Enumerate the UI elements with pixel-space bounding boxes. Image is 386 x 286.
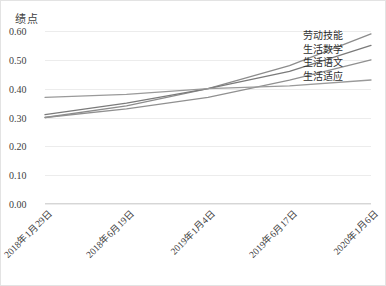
legend-item: 生活语文	[303, 56, 386, 70]
y-axis-tick-labels: 0.600.500.400.300.200.100.00	[5, 31, 43, 204]
y-tick-label: 0.30	[9, 112, 43, 123]
y-tick-label: 0.00	[9, 199, 43, 210]
x-tick-label: 2018年1月29日	[0, 206, 55, 286]
y-tick-label: 0.10	[9, 170, 43, 181]
legend-item: 劳动技能	[303, 29, 386, 43]
y-tick-label: 0.20	[9, 141, 43, 152]
legend-item: 生活数学	[303, 43, 386, 57]
line-chart: 绩点 0.600.500.400.300.200.100.00 2018年1月2…	[0, 0, 386, 286]
y-axis-title: 绩点	[15, 10, 38, 26]
x-axis-tick-labels: 2018年1月29日2018年6月19日2019年1月4日2019年6月17日2…	[45, 204, 371, 284]
y-tick-label: 0.60	[9, 26, 43, 37]
legend: 劳动技能生活数学生活语文生活适应	[303, 29, 386, 83]
y-tick-label: 0.40	[9, 83, 43, 94]
legend-item: 生活适应	[303, 70, 386, 84]
y-tick-label: 0.50	[9, 54, 43, 65]
